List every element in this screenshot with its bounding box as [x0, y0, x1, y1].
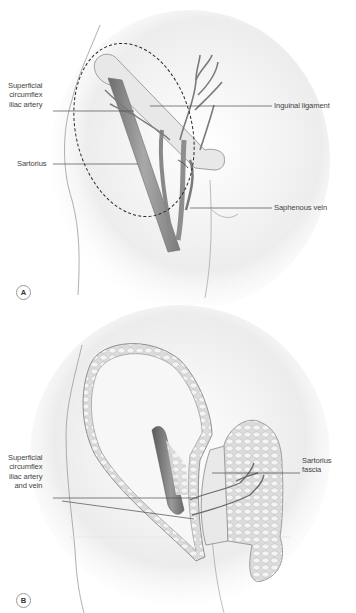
- label-line: circumflex: [8, 462, 42, 471]
- panel-b: Superficial circumflex iliac artery and …: [0, 305, 356, 613]
- label-superficial-circumflex-iliac-artery-and-vein: Superficial circumflex iliac artery and …: [8, 453, 42, 491]
- label-inguinal-ligament: Inguinal ligament: [274, 101, 330, 110]
- label-line: fascia: [302, 465, 332, 474]
- panel-badge-a: A: [16, 285, 31, 300]
- label-saphenous-vein: Saphenous vein: [274, 203, 327, 212]
- label-line: iliac artery: [8, 472, 42, 481]
- panel-badge-b: B: [16, 593, 31, 608]
- panel-a: Superficial circumflex iliac artery Sart…: [0, 0, 356, 305]
- label-line: Superficial: [8, 81, 42, 90]
- label-line: Sartorius: [302, 456, 332, 465]
- label-line: iliac artery: [8, 100, 42, 109]
- label-sartorius-fascia: Sartorius fascia: [302, 456, 332, 475]
- label-line: Superficial: [8, 453, 42, 462]
- label-sartorius: Sartorius: [17, 159, 47, 168]
- label-line: circumflex: [8, 90, 42, 99]
- label-line: and vein: [8, 481, 42, 490]
- label-superficial-circumflex-iliac-artery: Superficial circumflex iliac artery: [8, 81, 42, 109]
- illustration-a: [0, 0, 356, 305]
